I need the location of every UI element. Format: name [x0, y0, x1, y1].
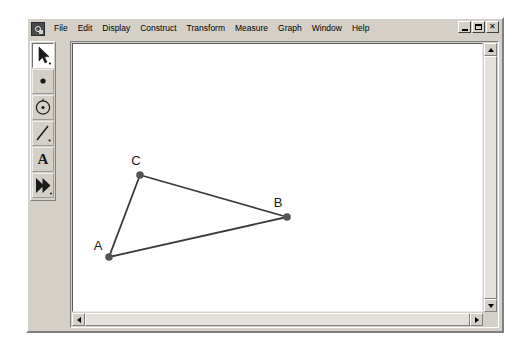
- menu-item-edit[interactable]: Edit: [73, 22, 98, 35]
- menu-item-window[interactable]: Window: [307, 22, 347, 35]
- scroll-up-button[interactable]: [484, 43, 497, 56]
- point-tool[interactable]: [32, 69, 54, 94]
- menu-item-transform[interactable]: Transform: [182, 22, 230, 35]
- straightedge-tool[interactable]: [32, 121, 54, 146]
- segment-AC[interactable]: [109, 175, 140, 257]
- selection-arrow-tool[interactable]: [32, 43, 54, 68]
- menu-item-help[interactable]: Help: [347, 22, 374, 35]
- application-window: File Edit Display Construct Transform Me…: [26, 17, 504, 333]
- custom-tool[interactable]: [32, 173, 54, 198]
- point-C[interactable]: [136, 171, 144, 179]
- sketch-document-window: ABC: [70, 41, 499, 328]
- compass-tool[interactable]: [32, 95, 54, 120]
- segment-AB[interactable]: [109, 217, 287, 257]
- triangle-down-icon: [488, 304, 494, 308]
- menu-item-construct[interactable]: Construct: [135, 22, 181, 35]
- application-root: File Edit Display Construct Transform Me…: [0, 0, 526, 360]
- minimize-button[interactable]: [458, 21, 471, 33]
- segment-CB[interactable]: [140, 175, 287, 217]
- tool-palette: A: [30, 41, 56, 201]
- menu-item-file[interactable]: File: [49, 22, 73, 35]
- sketchpad-app-icon[interactable]: [31, 22, 45, 36]
- triangle-up-icon: [488, 48, 494, 52]
- menu-item-display[interactable]: Display: [97, 22, 135, 35]
- horizontal-scrollbar[interactable]: [72, 313, 483, 327]
- point-label-A[interactable]: A: [94, 238, 103, 253]
- window-controls: ✕: [458, 21, 499, 33]
- double-arrow-icon: [33, 174, 53, 197]
- text-tool[interactable]: A: [32, 147, 54, 172]
- point-A[interactable]: [105, 253, 113, 261]
- letter-a-icon: A: [33, 148, 53, 171]
- geometry-figure: ABC: [73, 44, 483, 302]
- sketch-canvas[interactable]: ABC: [72, 43, 483, 312]
- scroll-right-button[interactable]: [470, 313, 483, 326]
- point-B[interactable]: [283, 213, 291, 221]
- point-label-C[interactable]: C: [131, 153, 140, 168]
- vertical-scroll-thumb[interactable]: [484, 56, 497, 299]
- point-icon: [33, 70, 53, 93]
- close-button[interactable]: ✕: [486, 21, 499, 33]
- line-segment-icon: [33, 122, 53, 145]
- restore-button[interactable]: [472, 21, 485, 33]
- horizontal-scroll-thumb[interactable]: [85, 313, 470, 326]
- triangle-right-icon: [475, 317, 479, 323]
- scroll-left-button[interactable]: [72, 313, 85, 326]
- scrollbar-corner: [484, 313, 498, 327]
- menu-item-measure[interactable]: Measure: [230, 22, 273, 35]
- circle-icon: [33, 96, 53, 119]
- vertical-scrollbar[interactable]: [484, 43, 498, 312]
- arrow-icon: [33, 44, 53, 67]
- point-label-B[interactable]: B: [274, 195, 283, 210]
- scroll-down-button[interactable]: [484, 299, 497, 312]
- triangle-left-icon: [77, 317, 81, 323]
- menu-item-graph[interactable]: Graph: [273, 22, 307, 35]
- menu-bar: File Edit Display Construct Transform Me…: [28, 19, 502, 38]
